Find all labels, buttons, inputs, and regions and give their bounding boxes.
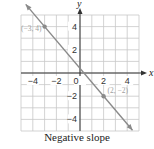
coordinate-plane: xy −4−202442−2−4 (−3, 4)(2, −2) bbox=[0, 0, 154, 149]
svg-text:(2, −2): (2, −2) bbox=[108, 86, 129, 95]
axes: xy bbox=[21, 0, 154, 131]
svg-text:−2: −2 bbox=[51, 76, 61, 86]
svg-text:y: y bbox=[76, 0, 82, 9]
svg-text:−2: −2 bbox=[67, 91, 77, 101]
svg-text:−4: −4 bbox=[67, 114, 77, 124]
svg-text:4: 4 bbox=[72, 22, 77, 32]
svg-text:−4: −4 bbox=[28, 76, 38, 86]
svg-text:0: 0 bbox=[73, 76, 78, 86]
svg-text:2: 2 bbox=[72, 45, 77, 55]
svg-text:2: 2 bbox=[101, 76, 106, 86]
chart-caption: Negative slope bbox=[0, 131, 154, 143]
svg-text:x: x bbox=[148, 67, 154, 78]
svg-text:(−3, 4): (−3, 4) bbox=[21, 24, 42, 33]
svg-text:4: 4 bbox=[125, 76, 130, 86]
